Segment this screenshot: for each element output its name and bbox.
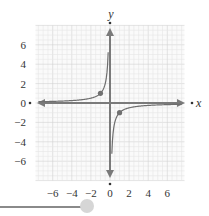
y-tick-label: −6 <box>14 155 26 167</box>
y-tick-label: −4 <box>14 136 26 148</box>
y-axis-label: y <box>107 7 114 21</box>
graph: −6−4−202466420−2−4−6 x y <box>0 0 209 216</box>
x-tick-label: 0 <box>107 187 113 199</box>
y-axis-top-end-dot <box>109 22 112 25</box>
y-tick-label: 6 <box>21 39 27 51</box>
y-axis-bottom-end-dot <box>109 183 112 186</box>
y-tick-label: 0 <box>21 97 27 109</box>
x-axis-left-end-dot <box>29 102 32 105</box>
x-tick-label: 6 <box>165 187 171 199</box>
y-tick-label: 4 <box>21 58 27 70</box>
x-tick-label: −2 <box>85 187 97 199</box>
x-tick-label: 2 <box>126 187 132 199</box>
x-axis-label: x <box>195 96 202 110</box>
y-tick-label: 2 <box>21 78 27 90</box>
data-point <box>98 91 103 96</box>
slider-track[interactable] <box>0 206 86 208</box>
x-tick-label: −4 <box>66 187 78 199</box>
x-tick-label: −6 <box>47 187 59 199</box>
data-point <box>117 110 122 115</box>
y-tick-label: −2 <box>14 116 26 128</box>
x-axis-right-end-dot <box>191 102 194 105</box>
slider-thumb[interactable] <box>80 199 94 213</box>
x-tick-label: 4 <box>145 187 151 199</box>
